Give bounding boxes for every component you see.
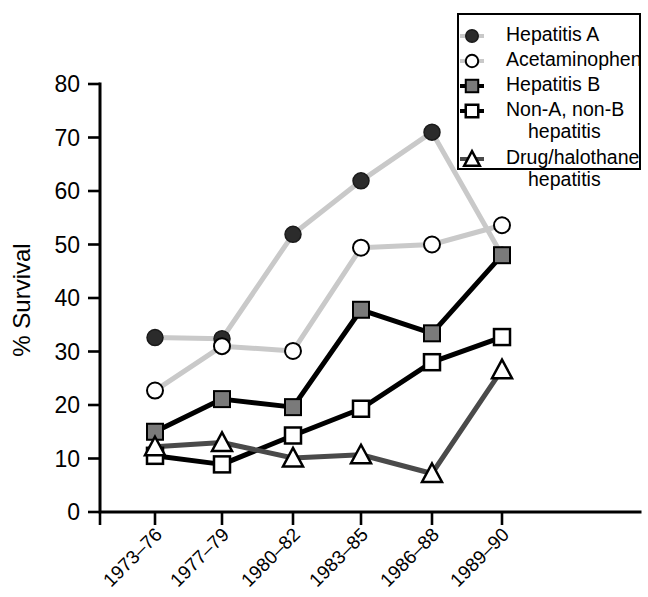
data-point-marker — [147, 383, 163, 399]
data-point-marker — [494, 247, 510, 263]
legend-label-wrap: hepatitis — [528, 120, 601, 142]
data-point-marker — [424, 124, 440, 140]
data-point-marker — [466, 80, 478, 92]
y-axis-title: % Survival — [8, 243, 35, 356]
data-point-marker — [494, 329, 510, 345]
data-point-marker — [466, 30, 478, 42]
series-line-2 — [155, 225, 502, 390]
data-point-marker — [353, 302, 369, 318]
x-tick-label: 1989–90 — [446, 524, 513, 591]
data-point-marker — [466, 55, 478, 67]
data-point-marker — [424, 354, 440, 370]
y-axis-ticks — [88, 84, 100, 512]
data-point-marker — [285, 399, 301, 415]
x-tick-label: 1983–85 — [305, 524, 372, 591]
data-point-marker — [353, 401, 369, 417]
x-tick-label: 1980–82 — [237, 524, 304, 591]
y-tick-label: 70 — [54, 125, 80, 151]
data-point-marker — [353, 240, 369, 256]
series-polyline — [155, 225, 502, 390]
legend-label: Hepatitis B — [506, 73, 600, 95]
x-tick-label: 1986–88 — [376, 524, 443, 591]
chart-canvas: 01020304050607080 % Survival 1973–761977… — [0, 0, 648, 597]
y-tick-label: 60 — [54, 178, 80, 204]
survival-line-chart: 01020304050607080 % Survival 1973–761977… — [0, 0, 648, 597]
chart-legend: Hepatitis AAcetaminophenHepatitis BNon-A… — [458, 14, 642, 190]
data-point-marker — [466, 105, 478, 117]
y-tick-label: 50 — [54, 232, 80, 258]
y-tick-label: 40 — [54, 285, 80, 311]
x-axis-tick-labels: 1973–761977–791980–821983–851986–881989–… — [99, 524, 513, 591]
series-line-1 — [155, 132, 502, 339]
legend-label: Hepatitis A — [506, 23, 599, 45]
series-markers-4 — [147, 329, 510, 472]
data-point-marker — [494, 217, 510, 233]
data-series-layer — [145, 124, 512, 482]
series-polyline — [155, 132, 502, 339]
legend-label: Non-A, non-B — [506, 98, 624, 120]
data-point-marker — [147, 330, 163, 346]
data-point-marker — [353, 173, 369, 189]
legend-label: Drug/halothane — [506, 146, 639, 168]
y-tick-label: 30 — [54, 339, 80, 365]
data-point-marker — [285, 427, 301, 443]
data-point-marker — [424, 325, 440, 341]
x-tick-label: 1973–76 — [99, 524, 166, 591]
x-axis-ticks — [100, 512, 502, 525]
y-tick-label: 10 — [54, 446, 80, 472]
x-tick-label: 1977–79 — [166, 524, 233, 591]
series-polyline — [155, 255, 502, 432]
legend-label-wrap: hepatitis — [528, 168, 601, 190]
data-point-marker — [214, 391, 230, 407]
data-point-marker — [214, 338, 230, 354]
y-tick-label: 80 — [54, 71, 80, 97]
series-line-3 — [155, 255, 502, 432]
y-axis-tick-labels: 01020304050607080 — [54, 71, 80, 525]
data-point-marker — [424, 237, 440, 253]
data-point-marker — [285, 226, 301, 242]
y-tick-label: 20 — [54, 392, 80, 418]
series-markers-1 — [147, 124, 510, 347]
data-point-marker — [492, 360, 512, 379]
y-tick-label: 0 — [67, 499, 80, 525]
legend-label: Acetaminophen — [506, 48, 642, 70]
data-point-marker — [214, 456, 230, 472]
data-point-marker — [285, 343, 301, 359]
